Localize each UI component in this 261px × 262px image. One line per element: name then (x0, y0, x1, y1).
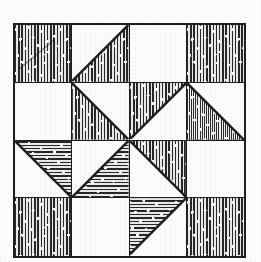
fabric-patch-tri-ul-horizontal (130, 198, 186, 256)
fabric-patch-tri-ll-crosshatch (187, 83, 244, 140)
fabric-speckle-dots (130, 83, 187, 141)
fabric-patch-tri-ll-vertical (72, 83, 128, 140)
cell-r4c1 (15, 198, 72, 256)
fabric-speckle-dots (130, 198, 187, 256)
quilt-block-figure (0, 0, 261, 262)
fabric-patch-tri-ul-vertical (130, 83, 186, 140)
fabric-patch-tri-lr-vertical (72, 25, 128, 82)
fabric-speckle-dots (72, 83, 129, 141)
cell-r4c2 (72, 198, 129, 256)
cell-r3c2 (72, 141, 129, 199)
cell-r2c3 (130, 83, 187, 141)
cell-r2c2 (72, 83, 129, 141)
cell-r4c4 (187, 198, 244, 256)
quilt-cell-grid (15, 25, 244, 256)
cell-r3c4 (187, 141, 244, 199)
cell-r3c1 (15, 141, 72, 199)
cell-r1c1 (15, 25, 72, 83)
fabric-patch-full-vertical (187, 25, 244, 82)
cell-r1c4 (187, 25, 244, 83)
fabric-patch-tri-ur-horizontal (15, 141, 71, 198)
fabric-speckle-dots (72, 25, 129, 83)
cell-r1c2 (72, 25, 129, 83)
fabric-patch-tri-lr-horizontal (72, 141, 128, 198)
fabric-speckle-dots (187, 198, 244, 256)
fabric-speckle-dots (15, 25, 72, 83)
cell-r1c3 (130, 25, 187, 83)
fabric-speckle-dots (15, 141, 72, 199)
fabric-speckle-dots (72, 141, 129, 199)
fabric-patch-full-vertical (187, 198, 244, 256)
fabric-speckle-dots (187, 25, 244, 83)
cell-r4c3 (130, 198, 187, 256)
fabric-speckle-dots (130, 141, 187, 199)
fabric-speckle-dots (187, 83, 244, 141)
fabric-patch-full-vertical (15, 198, 71, 256)
fabric-patch-tri-ur-vertical (130, 141, 186, 198)
fabric-patch-full-vertical (15, 25, 71, 82)
cell-r3c3 (130, 141, 187, 199)
quilt-block-frame (13, 23, 246, 258)
fabric-speckle-dots (15, 198, 72, 256)
cell-r2c1 (15, 83, 72, 141)
cell-r2c4 (187, 83, 244, 141)
